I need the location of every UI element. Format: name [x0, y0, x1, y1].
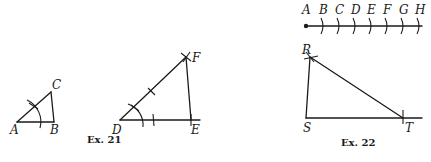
nl-label-f: F [382, 3, 392, 17]
nl-label-a: A [301, 3, 311, 17]
label-t: T [405, 121, 414, 135]
triangle-def: D E F [111, 51, 201, 137]
segment-rt [310, 57, 403, 118]
nl-label-b: B [318, 3, 328, 17]
label-f: F [191, 51, 201, 65]
segment-cb [51, 92, 54, 122]
segment-ac [17, 92, 51, 122]
segment-fe [186, 57, 191, 120]
point-a [304, 24, 308, 28]
segment-df [120, 57, 186, 120]
nl-label-c: C [335, 3, 344, 17]
nl-label-h: H [414, 3, 426, 17]
label-a: A [9, 123, 19, 137]
segment-sr [306, 57, 310, 118]
number-line: A B C D E F G H [301, 3, 426, 34]
nl-label-e: E [366, 3, 376, 17]
triangle-rst: R S T [301, 43, 422, 135]
geometry-figures: A B C D E F Ex. 21 A B C D E F [0, 0, 431, 162]
label-r: R [301, 43, 311, 57]
angle-arc-a [27, 100, 41, 128]
arc-mark-de [153, 114, 154, 126]
label-b: B [49, 123, 59, 137]
triangle-abc: A B C [9, 78, 61, 137]
angle-arc-d [128, 104, 143, 127]
caption-ex22: Ex. 22 [341, 137, 376, 148]
label-c: C [52, 78, 61, 92]
nl-label-g: G [399, 3, 409, 17]
label-s: S [303, 121, 311, 135]
nl-label-d: D [350, 3, 361, 17]
caption-ex21: Ex. 21 [87, 134, 121, 145]
label-e: E [190, 123, 200, 137]
